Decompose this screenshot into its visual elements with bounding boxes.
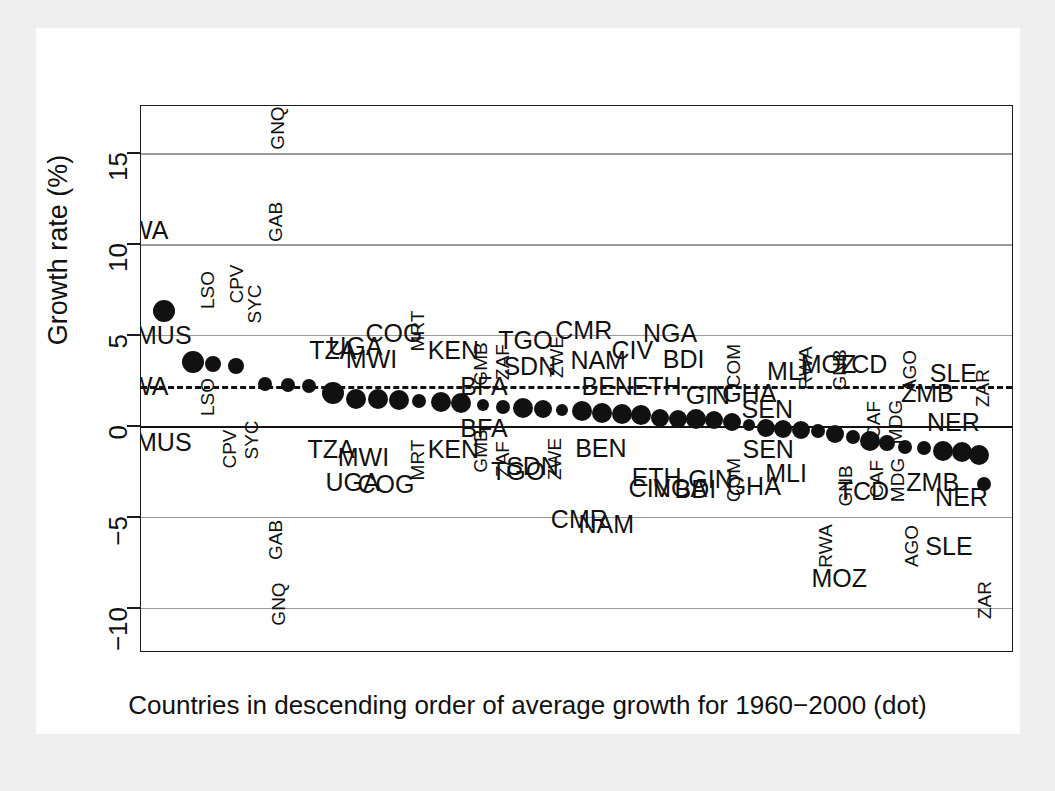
- grid-line-10: [141, 244, 1012, 246]
- data-dot-28: [743, 419, 755, 431]
- country-label-below-caf: CAF: [867, 460, 886, 498]
- country-label-below-gnq: GNQ: [269, 582, 288, 625]
- data-dot-19: [572, 401, 592, 421]
- y-tick-label-4: −5: [103, 516, 134, 546]
- country-label-below-rwa: RWA: [815, 524, 834, 567]
- country-label-below-mus: MUS: [140, 430, 192, 455]
- data-dot-6: [302, 379, 316, 393]
- country-label-below-mwi: MWI: [338, 444, 389, 469]
- y-tick-mark-0: [127, 152, 140, 154]
- data-dot-38: [917, 441, 931, 455]
- country-label-above-nga: NGA: [643, 321, 697, 346]
- data-dot-15: [496, 400, 510, 414]
- data-dot-32: [811, 424, 825, 438]
- country-label-above-cmr: CMR: [555, 317, 612, 342]
- country-label-below-zwe: ZWE: [545, 437, 564, 479]
- plot-frame: BWAGNQGABLSOCPVSYCMUSTZAUGAMWICOGMRTKENG…: [140, 105, 1013, 652]
- country-label-above-gnq: GNQ: [268, 106, 287, 149]
- country-label-below-lso: LSO: [197, 378, 216, 416]
- data-dot-3: [228, 358, 244, 374]
- country-label-above-bwa: BWA: [140, 373, 168, 398]
- y-tick-mark-5: [127, 607, 140, 609]
- country-label-below-cpv: CPV: [220, 430, 239, 469]
- data-dot-22: [631, 405, 651, 425]
- y-tick-mark-2: [127, 334, 140, 336]
- data-dot-41: [969, 445, 989, 465]
- country-label-below-sle: SLE: [925, 533, 972, 558]
- y-tick-label-1: 10: [103, 243, 134, 272]
- country-label-above-mwi: MWI: [346, 346, 397, 371]
- data-dot-18: [556, 404, 568, 416]
- country-label-below-mli: MLI: [765, 461, 807, 486]
- data-dot-9: [368, 389, 388, 409]
- country-label-below-mdg: MDG: [887, 458, 906, 502]
- x-axis-caption: Countries in descending order of average…: [0, 690, 1055, 721]
- country-label-above-syc: SYC: [244, 285, 263, 324]
- data-dot-14: [477, 399, 489, 411]
- grid-line-15: [141, 153, 1012, 155]
- data-dot-25: [686, 409, 706, 429]
- data-dot-33: [826, 425, 844, 443]
- country-label-above-ner: NER: [927, 410, 980, 435]
- data-dot-27: [723, 413, 741, 431]
- y-axis-title: Growth rate (%): [43, 155, 74, 346]
- data-dot-37: [898, 440, 912, 454]
- country-label-above-bwa: BWA: [140, 217, 168, 242]
- country-label-below-gab: GAB: [266, 520, 285, 560]
- country-label-above-lso: LSO: [197, 271, 216, 309]
- y-tick-label-3: 0: [103, 425, 134, 439]
- data-dot-31: [792, 421, 810, 439]
- data-dot-7: [322, 382, 344, 404]
- country-label-below-nam: NAM: [578, 511, 634, 536]
- data-dot-35: [860, 431, 880, 451]
- data-dot-39: [933, 441, 953, 461]
- data-dot-42: [977, 477, 991, 491]
- y-tick-mark-4: [127, 516, 140, 518]
- data-dot-36: [879, 435, 895, 451]
- figure-page: Growth rate (%) 151050−5−10 BWAGNQGABLSO…: [0, 0, 1055, 791]
- data-dot-5: [281, 378, 295, 392]
- country-label-below-ago: AGO: [902, 525, 921, 567]
- country-label-below-gmb: GMB: [471, 430, 490, 473]
- data-dot-16: [513, 398, 533, 418]
- country-label-above-ben: BEN: [581, 373, 632, 398]
- data-dot-29: [757, 419, 775, 437]
- country-label-below-moz: MOZ: [811, 566, 867, 591]
- data-dot-0: [153, 300, 175, 322]
- data-dot-13: [451, 393, 471, 413]
- data-dot-34: [846, 430, 860, 444]
- y-tick-label-5: −10: [103, 607, 134, 651]
- country-label-above-mrt: MRT: [408, 311, 427, 352]
- data-dot-23: [651, 409, 669, 427]
- country-label-above-gab: GAB: [266, 202, 285, 242]
- y-tick-mark-1: [127, 243, 140, 245]
- data-dot-4: [258, 377, 272, 391]
- country-label-above-tgo: TGO: [498, 328, 552, 353]
- data-dot-26: [705, 411, 723, 429]
- country-label-below-mrt: MRT: [408, 440, 427, 481]
- data-dot-8: [346, 389, 366, 409]
- country-label-above-bdi: BDI: [663, 346, 705, 371]
- data-dot-1: [182, 351, 204, 373]
- y-tick-mark-3: [127, 425, 140, 427]
- country-label-above-sle: SLE: [930, 361, 977, 386]
- data-dot-12: [431, 392, 451, 412]
- country-label-below-zar: ZAR: [975, 581, 994, 619]
- data-dot-24: [669, 410, 687, 428]
- data-dot-10: [389, 390, 409, 410]
- data-dot-11: [412, 394, 426, 408]
- country-label-below-syc: SYC: [242, 421, 261, 460]
- y-tick-label-0: 15: [103, 152, 134, 181]
- data-dot-21: [612, 404, 632, 424]
- country-label-above-cpv: CPV: [226, 265, 245, 304]
- data-dot-17: [534, 400, 552, 418]
- data-dot-2: [205, 356, 221, 372]
- y-tick-label-2: 5: [103, 334, 134, 348]
- country-label-above-tcd: TCD: [836, 352, 887, 377]
- country-label-above-mus: MUS: [140, 322, 192, 347]
- data-dot-20: [592, 403, 612, 423]
- country-label-above-zar: ZAR: [973, 369, 992, 407]
- country-label-below-ben: BEN: [575, 435, 626, 460]
- data-dot-30: [774, 420, 792, 438]
- country-label-above-eth: ETH: [632, 373, 682, 398]
